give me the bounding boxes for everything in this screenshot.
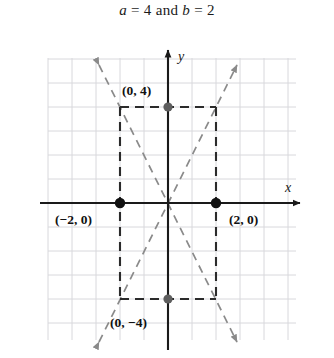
- figure-container: a = 4 and b = 2: [0, 0, 334, 358]
- point-0-4: [163, 102, 172, 111]
- equation-part-2: = 2: [190, 2, 215, 18]
- equation-part-1: = 4 and: [127, 2, 182, 18]
- variable-b: b: [182, 2, 190, 18]
- label-point-neg2-0: (−2, 0): [55, 212, 92, 227]
- label-point-2-0: (2, 0): [229, 212, 258, 227]
- point-0-neg4: [163, 294, 172, 303]
- coordinate-graph: x y (0, 4) (−2, 0) (2, 0) (0, −4): [0, 38, 334, 358]
- equation-caption: a = 4 and b = 2: [0, 2, 334, 19]
- graph-svg: x y (0, 4) (−2, 0) (2, 0) (0, −4): [0, 38, 334, 358]
- x-axis-label: x: [284, 180, 292, 195]
- point-2-0: [211, 198, 221, 208]
- point-neg2-0: [115, 198, 125, 208]
- label-point-0-4: (0, 4): [122, 83, 151, 98]
- label-point-0-neg4: (0, −4): [110, 315, 147, 330]
- variable-a: a: [119, 2, 127, 18]
- y-axis-label: y: [176, 49, 185, 64]
